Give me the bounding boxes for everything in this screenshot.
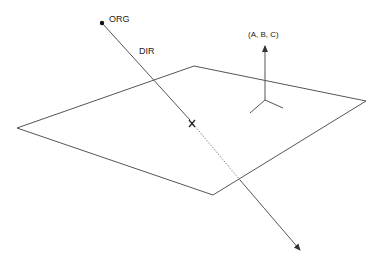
plane <box>17 66 366 195</box>
diagram-canvas <box>0 0 375 266</box>
normal-label: (A, B, C) <box>248 31 279 39</box>
intersection-x-icon <box>189 120 195 127</box>
ray-segment-exit <box>240 180 300 250</box>
origin-label: ORG <box>109 15 130 24</box>
ray-segment-hidden <box>193 124 240 180</box>
normal-base-right <box>265 100 283 108</box>
origin-point-icon <box>100 21 104 25</box>
normal-base-left <box>250 100 265 113</box>
direction-label: DIR <box>139 47 155 56</box>
